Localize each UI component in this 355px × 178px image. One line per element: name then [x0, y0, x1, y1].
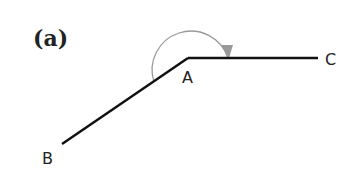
point-a-label: A [182, 68, 193, 87]
panel-label: (a) [33, 25, 68, 51]
point-b-label: B [42, 149, 53, 168]
segment-ab [62, 58, 188, 144]
angle-diagram: (a) A B C [0, 0, 355, 178]
point-c-label: C [325, 50, 336, 69]
